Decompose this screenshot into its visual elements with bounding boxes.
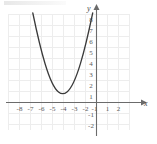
x-tick-labels: -8 -7 -6 -5 -4 -3 -2 -1 1 2 bbox=[17, 105, 121, 113]
y-tick: 1 bbox=[89, 93, 93, 101]
x-tick: -3 bbox=[72, 105, 78, 113]
y-tick: 3 bbox=[89, 71, 93, 79]
y-tick-labels-negative: -1 -2 bbox=[88, 111, 94, 130]
x-tick: -8 bbox=[17, 105, 23, 113]
x-axis-label: x bbox=[143, 99, 148, 108]
x-tick: 2 bbox=[117, 105, 121, 113]
y-tick: 6 bbox=[89, 38, 93, 46]
y-axis-arrowhead bbox=[94, 4, 100, 10]
y-tick: 4 bbox=[89, 60, 93, 68]
x-tick: -6 bbox=[39, 105, 45, 113]
x-tick: -7 bbox=[28, 105, 34, 113]
y-tick: -2 bbox=[88, 122, 94, 130]
graph-canvas: y x -8 -7 -6 -5 -4 -3 -2 -1 1 2 8 7 6 5 … bbox=[0, 0, 157, 144]
x-tick: 1 bbox=[106, 105, 110, 113]
y-tick: -1 bbox=[88, 111, 94, 119]
x-tick: -4 bbox=[61, 105, 67, 113]
grid-lines bbox=[8, 14, 130, 130]
figure-container: y x -8 -7 -6 -5 -4 -3 -2 -1 1 2 8 7 6 5 … bbox=[0, 0, 157, 144]
y-tick: 5 bbox=[89, 49, 93, 57]
x-tick: -5 bbox=[50, 105, 56, 113]
y-axis-label: y bbox=[86, 4, 91, 13]
y-tick: 2 bbox=[89, 82, 93, 90]
